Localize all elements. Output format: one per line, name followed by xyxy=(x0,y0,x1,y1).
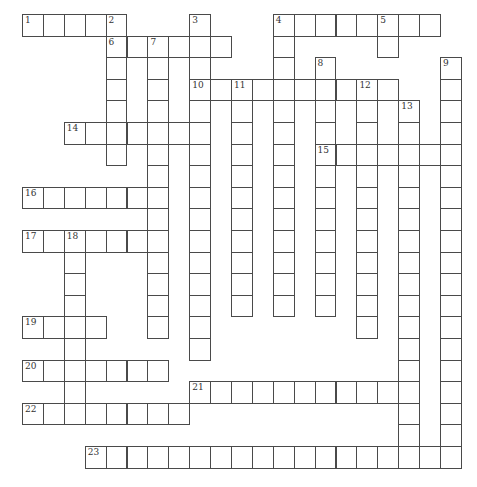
crossword-cell[interactable] xyxy=(189,252,211,275)
crossword-cell[interactable] xyxy=(440,208,462,231)
crossword-cell[interactable] xyxy=(127,36,149,59)
crossword-cell[interactable] xyxy=(106,403,128,426)
crossword-cell[interactable] xyxy=(106,122,128,145)
crossword-cell[interactable] xyxy=(356,381,378,404)
crossword-cell[interactable]: 7 xyxy=(147,36,169,59)
crossword-cell[interactable] xyxy=(356,273,378,296)
crossword-cell[interactable] xyxy=(440,273,462,296)
crossword-cell[interactable]: 4 xyxy=(273,14,295,37)
crossword-cell[interactable] xyxy=(147,122,169,145)
crossword-cell[interactable] xyxy=(147,273,169,296)
crossword-cell[interactable] xyxy=(273,208,295,231)
crossword-cell[interactable] xyxy=(377,446,399,469)
crossword-cell[interactable] xyxy=(147,187,169,210)
crossword-cell[interactable] xyxy=(127,446,149,469)
crossword-cell[interactable] xyxy=(398,122,420,145)
crossword-cell[interactable] xyxy=(273,144,295,167)
crossword-cell[interactable] xyxy=(398,273,420,296)
crossword-cell[interactable] xyxy=(294,381,316,404)
crossword-cell[interactable] xyxy=(106,79,128,102)
crossword-cell[interactable]: 17 xyxy=(22,230,44,253)
crossword-cell[interactable] xyxy=(43,187,65,210)
crossword-cell[interactable] xyxy=(252,79,274,102)
crossword-cell[interactable] xyxy=(168,403,190,426)
crossword-cell[interactable] xyxy=(273,36,295,59)
crossword-cell[interactable] xyxy=(64,316,86,339)
crossword-cell[interactable] xyxy=(85,187,107,210)
crossword-cell[interactable]: 5 xyxy=(377,14,399,37)
crossword-cell[interactable] xyxy=(64,295,86,318)
crossword-cell[interactable] xyxy=(231,295,253,318)
crossword-cell[interactable] xyxy=(147,360,169,383)
crossword-cell[interactable] xyxy=(106,360,128,383)
crossword-cell[interactable] xyxy=(64,187,86,210)
crossword-cell[interactable] xyxy=(440,316,462,339)
crossword-cell[interactable] xyxy=(356,316,378,339)
crossword-cell[interactable] xyxy=(43,403,65,426)
crossword-cell[interactable]: 13 xyxy=(398,100,420,123)
crossword-cell[interactable] xyxy=(440,122,462,145)
crossword-cell[interactable] xyxy=(440,360,462,383)
crossword-cell[interactable] xyxy=(189,208,211,231)
crossword-cell[interactable] xyxy=(273,165,295,188)
crossword-cell[interactable] xyxy=(85,360,107,383)
crossword-cell[interactable] xyxy=(147,316,169,339)
crossword-cell[interactable] xyxy=(273,57,295,80)
crossword-cell[interactable] xyxy=(147,144,169,167)
crossword-cell[interactable] xyxy=(168,122,190,145)
crossword-cell[interactable] xyxy=(315,273,337,296)
crossword-cell[interactable] xyxy=(64,338,86,361)
crossword-cell[interactable] xyxy=(43,230,65,253)
crossword-cell[interactable] xyxy=(210,446,232,469)
crossword-cell[interactable] xyxy=(440,424,462,447)
crossword-cell[interactable] xyxy=(210,79,232,102)
crossword-cell[interactable] xyxy=(315,14,337,37)
crossword-cell[interactable] xyxy=(398,338,420,361)
crossword-cell[interactable]: 18 xyxy=(64,230,86,253)
crossword-cell[interactable] xyxy=(356,144,378,167)
crossword-cell[interactable] xyxy=(189,273,211,296)
crossword-cell[interactable] xyxy=(147,100,169,123)
crossword-cell[interactable] xyxy=(336,446,358,469)
crossword-cell[interactable] xyxy=(189,230,211,253)
crossword-cell[interactable] xyxy=(64,403,86,426)
crossword-cell[interactable] xyxy=(106,187,128,210)
crossword-cell[interactable] xyxy=(189,295,211,318)
crossword-cell[interactable] xyxy=(127,403,149,426)
crossword-cell[interactable] xyxy=(189,165,211,188)
crossword-cell[interactable] xyxy=(147,295,169,318)
crossword-cell[interactable] xyxy=(147,446,169,469)
crossword-cell[interactable] xyxy=(231,100,253,123)
crossword-cell[interactable] xyxy=(356,14,378,37)
crossword-cell[interactable]: 20 xyxy=(22,360,44,383)
crossword-cell[interactable] xyxy=(273,252,295,275)
crossword-cell[interactable]: 2 xyxy=(106,14,128,37)
crossword-cell[interactable] xyxy=(356,446,378,469)
crossword-cell[interactable] xyxy=(64,273,86,296)
crossword-cell[interactable] xyxy=(294,79,316,102)
crossword-cell[interactable] xyxy=(189,316,211,339)
crossword-cell[interactable] xyxy=(231,187,253,210)
crossword-cell[interactable]: 10 xyxy=(189,79,211,102)
crossword-cell[interactable] xyxy=(336,14,358,37)
crossword-cell[interactable] xyxy=(189,36,211,59)
crossword-cell[interactable] xyxy=(231,446,253,469)
crossword-cell[interactable] xyxy=(189,122,211,145)
crossword-cell[interactable] xyxy=(189,187,211,210)
crossword-cell[interactable]: 19 xyxy=(22,316,44,339)
crossword-cell[interactable] xyxy=(64,381,86,404)
crossword-cell[interactable] xyxy=(315,381,337,404)
crossword-cell[interactable] xyxy=(273,295,295,318)
crossword-cell[interactable]: 9 xyxy=(440,57,462,80)
crossword-cell[interactable] xyxy=(147,57,169,80)
crossword-cell[interactable] xyxy=(189,338,211,361)
crossword-cell[interactable] xyxy=(315,252,337,275)
crossword-cell[interactable]: 3 xyxy=(189,14,211,37)
crossword-cell[interactable] xyxy=(356,230,378,253)
crossword-cell[interactable]: 14 xyxy=(64,122,86,145)
crossword-cell[interactable] xyxy=(440,144,462,167)
crossword-cell[interactable] xyxy=(398,381,420,404)
crossword-cell[interactable] xyxy=(106,57,128,80)
crossword-cell[interactable] xyxy=(336,144,358,167)
crossword-cell[interactable] xyxy=(189,100,211,123)
